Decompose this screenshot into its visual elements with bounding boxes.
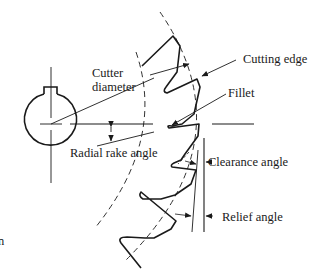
cutter-diameter-label-line1: Cutter	[92, 66, 123, 80]
relief-angle-label: Relief angle	[222, 210, 283, 224]
fillet-label: Fillet	[228, 86, 254, 100]
milling-cutter-diagram: Cutter diameter Cutting edge Fillet Radi…	[0, 0, 311, 274]
clearance-angle-lines	[178, 138, 204, 232]
relief-angle-lines	[175, 214, 213, 216]
left-edge-text-fragment: n	[0, 234, 4, 248]
cutting-edge-label: Cutting edge	[243, 52, 307, 66]
radial-rake-angle-label: Radial rake angle	[70, 146, 157, 160]
center-crosshair	[40, 67, 62, 183]
diagram-drawing	[0, 0, 311, 274]
cutter-diameter-label-line2: diameter	[92, 80, 136, 94]
cutting-edge-leader	[202, 60, 236, 76]
clearance-angle-label: Clearance angle	[208, 155, 288, 169]
fillet-leader	[172, 94, 226, 125]
cutter-diameter-arrow	[150, 64, 189, 75]
